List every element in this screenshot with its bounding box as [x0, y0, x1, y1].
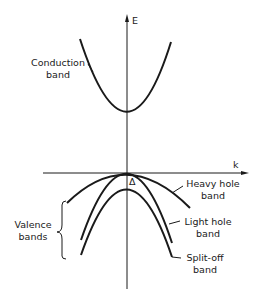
- band-curves: [0, 0, 257, 289]
- split-off-band-label: Split-off band: [181, 252, 229, 276]
- heavy-hole-leader-line: [172, 186, 183, 193]
- light-hole-leader-line: [169, 221, 180, 224]
- k-axis-arrow-icon: [241, 171, 249, 175]
- conduction-band-label: Conduction band: [30, 57, 86, 81]
- k-axis-label: k: [233, 159, 239, 171]
- valence-bands-label: Valence bands: [11, 219, 55, 243]
- energy-axis-label: E: [132, 15, 138, 27]
- split-off-energy-label: Δ: [129, 176, 136, 188]
- band-structure-diagram: E k Conduction band Δ Heavy hole band Li…: [0, 0, 257, 289]
- split-off-leader-line: [172, 257, 181, 258]
- energy-axis-arrow-icon: [125, 14, 129, 22]
- conduction-band-curve: [80, 39, 171, 112]
- valence-brace-icon: [57, 201, 66, 259]
- heavy-hole-band-label: Heavy hole band: [183, 178, 243, 202]
- light-hole-band-label: Light hole band: [180, 216, 236, 240]
